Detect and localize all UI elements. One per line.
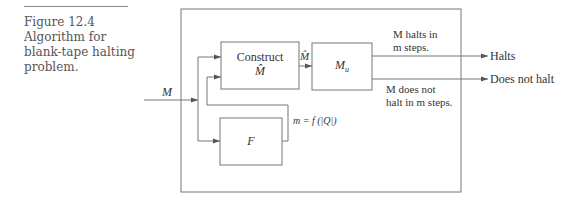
construct-to-mu-label: M̂ xyxy=(300,50,309,63)
f-box-label: F xyxy=(220,134,282,148)
diagram-lines xyxy=(0,0,577,210)
construct-label-line2: M̂ xyxy=(221,64,299,78)
not-halts-condition-line1: M does not xyxy=(386,83,453,96)
construct-label-line1: Construct xyxy=(221,50,299,64)
halts-condition-line1: M halts in xyxy=(393,28,438,41)
construct-box-label: Construct M̂ xyxy=(221,50,299,78)
not-halts-condition-line2: halt in m steps. xyxy=(386,96,453,109)
mu-sub: u xyxy=(345,65,349,74)
input-label: M xyxy=(162,86,172,99)
halts-condition-line2: m steps. xyxy=(393,41,438,54)
halts-output: Halts xyxy=(490,50,515,63)
not-halts-condition-label: M does not halt in m steps. xyxy=(386,83,453,109)
mu-box-label: Mu xyxy=(312,58,372,77)
f-output-label: m = f (|Q|) xyxy=(293,114,337,127)
halts-condition-label: M halts in m steps. xyxy=(393,28,438,54)
mu-main: M xyxy=(335,58,345,72)
does-not-halt-output: Does not halt xyxy=(490,73,554,86)
